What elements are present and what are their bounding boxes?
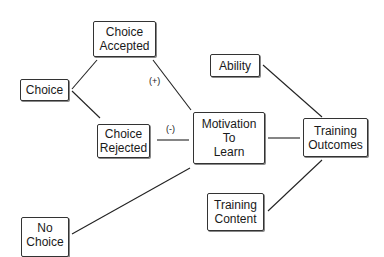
node-text: No xyxy=(37,221,52,235)
node-ability: Ability xyxy=(210,54,260,77)
node-text: To xyxy=(223,131,236,145)
node-text: Rejected xyxy=(100,141,147,155)
node-text: Ability xyxy=(219,59,251,73)
node-choice: Choice xyxy=(20,79,69,101)
edge-choice-to-accepted xyxy=(72,60,97,89)
node-motivation-to-learn: Motivation To Learn xyxy=(193,112,265,164)
node-text: Choice xyxy=(105,127,142,141)
node-text: Accepted xyxy=(99,39,149,53)
node-text: Choice xyxy=(26,235,63,249)
node-training-content: Training Content xyxy=(207,193,264,231)
node-text: Learn xyxy=(214,145,245,159)
node-no-choice: No Choice xyxy=(21,217,69,257)
node-text: Choice xyxy=(26,83,63,97)
edge-choice-to-rejected xyxy=(72,91,100,118)
edge-nochoice-to-motivation xyxy=(72,168,190,234)
node-choice-rejected: Choice Rejected xyxy=(97,124,150,158)
node-text: Training xyxy=(214,198,257,212)
node-text: Motivation xyxy=(202,117,257,131)
edge-ability-to-outcomes xyxy=(263,65,322,117)
node-text: Content xyxy=(214,212,256,226)
edge-label-positive: (+) xyxy=(149,76,160,86)
edge-content-to-outcomes xyxy=(268,160,322,211)
node-text: Training xyxy=(314,124,357,138)
node-text: Choice xyxy=(106,25,143,39)
edge-label-negative: (-) xyxy=(166,124,175,134)
node-training-outcomes: Training Outcomes xyxy=(303,118,368,157)
node-choice-accepted: Choice Accepted xyxy=(93,21,156,57)
node-text: Outcomes xyxy=(308,138,363,152)
